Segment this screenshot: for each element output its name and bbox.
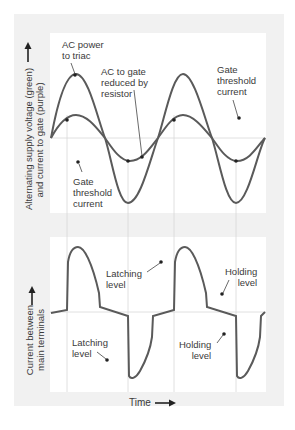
annotation-gate-threshold-right: Gate threshold current bbox=[217, 64, 256, 97]
annotation-line: Latching bbox=[72, 337, 108, 348]
annotation-line: level bbox=[106, 279, 142, 290]
top-y-axis-label: Alternating supply voltage (green) and c… bbox=[23, 70, 45, 210]
x-axis-label: Time bbox=[129, 397, 151, 408]
annotation-line: Gate bbox=[73, 176, 112, 187]
annotation-line: threshold bbox=[73, 187, 112, 198]
annotation-line: AC to gate bbox=[101, 66, 148, 77]
annotation-latching-upper: Latching level bbox=[106, 268, 142, 290]
axis-label-line: Alternating supply voltage (green) bbox=[23, 70, 34, 210]
annotation-ac-power: AC power to triac bbox=[62, 39, 104, 61]
annotation-line: AC power bbox=[62, 39, 104, 50]
annotation-gate-threshold-left: Gate threshold current bbox=[73, 176, 112, 209]
annotation-line: resistor bbox=[101, 88, 148, 99]
annotation-ac-to-gate: AC to gate reduced by resistor bbox=[101, 66, 148, 99]
axis-label-line: and current to gate (purple) bbox=[34, 70, 45, 210]
bottom-y-axis-label: Current between main terminals bbox=[24, 304, 46, 376]
annotation-holding-lower: Holding level bbox=[179, 339, 211, 361]
annotation-holding-upper: Holding level bbox=[225, 266, 257, 288]
leader-lines-top bbox=[71, 63, 238, 172]
axis-label-line: main terminals bbox=[35, 304, 46, 376]
annotation-line: Latching bbox=[106, 268, 142, 279]
annotation-line: current bbox=[73, 198, 112, 209]
annotation-line: reduced by bbox=[101, 77, 148, 88]
annotation-line: threshold bbox=[217, 75, 256, 86]
annotation-line: level bbox=[72, 348, 108, 359]
annotation-line: to triac bbox=[62, 50, 104, 61]
annotation-line: current bbox=[217, 86, 256, 97]
axis-label-line: Current between bbox=[24, 304, 35, 376]
annotation-latching-lower: Latching level bbox=[72, 337, 108, 359]
annotation-line: Holding bbox=[225, 266, 257, 277]
annotation-line: level bbox=[225, 277, 257, 288]
annotation-line: Gate bbox=[217, 64, 256, 75]
annotation-line: Holding bbox=[179, 339, 211, 350]
annotation-line: level bbox=[179, 350, 211, 361]
